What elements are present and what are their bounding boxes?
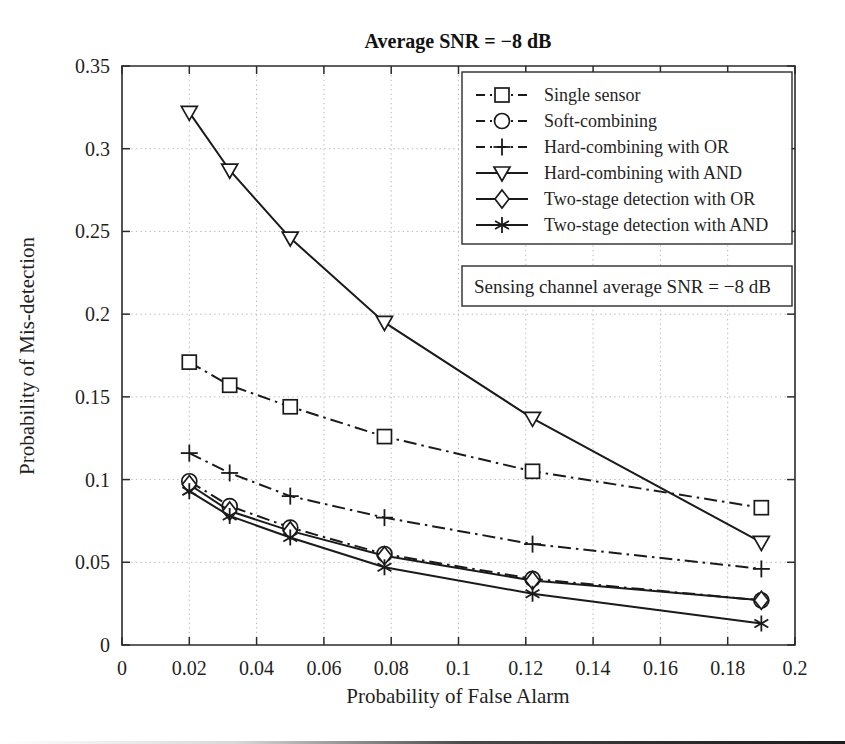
legend-item-label: Two-stage detection with OR [544, 189, 755, 209]
chart-title: Average SNR = −8 dB [365, 30, 552, 53]
legend-item-1[interactable]: Soft-combining [476, 111, 657, 131]
figure-container: Average SNR = −8 dB 00.020.040.060.080.1… [0, 0, 845, 744]
x-tick-label: 0.08 [374, 657, 409, 679]
annotation-text: Sensing channel average SNR = −8 dB [474, 276, 771, 297]
square-marker [754, 501, 768, 515]
square-marker [526, 464, 540, 478]
x-tick-label: 0.14 [576, 657, 611, 679]
y-tick-label: 0.1 [85, 469, 110, 491]
legend: Single sensorSoft-combiningHard-combinin… [462, 72, 792, 244]
y-axis-title: Probability of Mis-detection [15, 237, 39, 475]
x-tick-label: 0.2 [783, 657, 808, 679]
legend-item-0[interactable]: Single sensor [476, 85, 641, 105]
legend-item-label: Hard-combining with AND [544, 163, 742, 183]
chart-canvas: Average SNR = −8 dB 00.020.040.060.080.1… [0, 0, 845, 744]
legend-item-label: Hard-combining with OR [544, 137, 729, 157]
legend-item-label: Single sensor [544, 85, 641, 105]
annotation-box: Sensing channel average SNR = −8 dB [462, 266, 792, 306]
y-tick-label: 0.35 [75, 55, 110, 77]
legend-item-label: Soft-combining [544, 111, 657, 131]
x-tick-label: 0.18 [710, 657, 745, 679]
x-tick-label: 0.04 [239, 657, 274, 679]
legend-item-label: Two-stage detection with AND [544, 215, 768, 235]
square-marker [377, 430, 391, 444]
y-tick-label: 0.2 [85, 303, 110, 325]
x-tick-label: 0 [117, 657, 127, 679]
y-tick-label: 0.3 [85, 138, 110, 160]
circle-marker [495, 114, 510, 129]
square-marker [495, 88, 509, 102]
square-marker [283, 400, 297, 414]
x-tick-label: 0.12 [508, 657, 543, 679]
square-marker [223, 378, 237, 392]
square-marker [182, 355, 196, 369]
x-axis-title: Probability of False Alarm [346, 684, 569, 708]
x-tick-label: 0.1 [446, 657, 471, 679]
x-tick-label: 0.16 [643, 657, 678, 679]
y-tick-label: 0.05 [75, 551, 110, 573]
x-tick-label: 0.02 [172, 657, 207, 679]
x-tick-label: 0.06 [306, 657, 341, 679]
y-tick-label: 0 [100, 634, 110, 656]
y-tick-label: 0.15 [75, 386, 110, 408]
y-tick-label: 0.25 [75, 220, 110, 242]
